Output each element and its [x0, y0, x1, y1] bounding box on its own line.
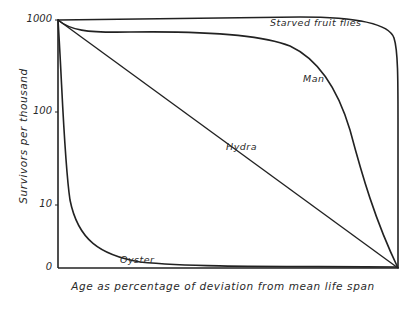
plot-area	[0, 0, 406, 318]
label-oyster: Oyster	[120, 254, 155, 265]
y-tick-0: 0	[16, 261, 52, 272]
label-hydra: Hydra	[226, 141, 257, 152]
label-starved-fruit-flies: Starved fruit flies	[270, 17, 362, 28]
x-axis-title: Age as percentage of deviation from mean…	[40, 280, 406, 292]
y-tick-1000: 1000	[16, 13, 52, 24]
label-man: Man	[303, 73, 325, 84]
y-axis-title: Survivors per thousand	[17, 61, 29, 211]
survivorship-chart: 1000 100 10 0 Starved fruit flies Man Hy…	[0, 0, 406, 318]
